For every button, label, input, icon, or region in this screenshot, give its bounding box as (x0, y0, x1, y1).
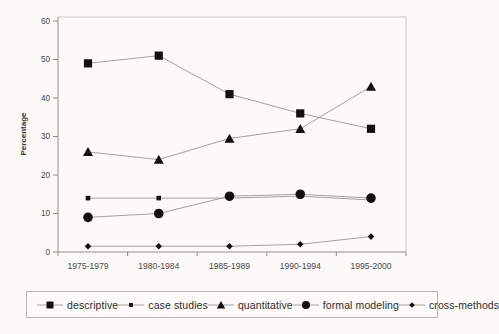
data-point-triangle (366, 82, 376, 91)
data-point-square-large (296, 109, 304, 117)
legend-item-quantitative: quantitative (208, 299, 293, 311)
data-point-diamond (297, 241, 304, 248)
data-point-circle (154, 209, 164, 219)
x-axis-category-label: 1975-1979 (67, 261, 108, 271)
legend-label: descriptive (67, 299, 118, 311)
data-point-circle (366, 193, 376, 203)
y-axis-tick-label: 60 (41, 17, 51, 26)
y-axis-tick-label: 10 (41, 209, 51, 218)
data-point-triangle (295, 124, 305, 133)
x-axis-category-label: 1985-1989 (209, 261, 250, 271)
data-point-diamond (85, 243, 92, 250)
series-descriptive (84, 52, 375, 133)
legend-label: cross-methods (429, 299, 499, 311)
y-axis-tick-label: 30 (41, 132, 51, 141)
legend-label: quantitative (238, 299, 293, 311)
circle-legend-icon (293, 299, 319, 311)
data-point-triangle (83, 147, 93, 156)
legend-item-descriptive: descriptive (37, 299, 118, 311)
data-point-square-large (367, 125, 375, 133)
y-axis-tick-label: 50 (41, 55, 51, 64)
line-chart: 01020304050601975-19791980-19841985-1989… (0, 0, 455, 290)
data-point-square-large (155, 52, 163, 60)
diamond-legend-icon (399, 299, 425, 311)
data-point-square-large (225, 90, 233, 98)
x-axis-category-label: 1990-1994 (280, 261, 321, 271)
square-large-legend-icon (37, 299, 63, 311)
legend-item-case-studies: case studies (118, 299, 208, 311)
data-point-square-small (129, 303, 133, 307)
data-point-circle (302, 300, 310, 308)
data-point-square-large (84, 59, 92, 67)
data-point-circle (225, 191, 235, 201)
triangle-legend-icon (208, 299, 234, 311)
data-point-diamond (155, 243, 162, 250)
x-axis-category-label: 1980-1984 (138, 261, 179, 271)
data-point-square-small (86, 196, 91, 201)
legend-item-cross-methods: cross-methods (399, 299, 499, 311)
data-point-square-small (156, 196, 161, 201)
data-point-circle (295, 189, 305, 199)
data-point-diamond (226, 243, 233, 250)
x-axis-category-label: 1995-2000 (350, 261, 391, 271)
square-small-legend-icon (118, 299, 144, 311)
legend-label: case studies (148, 299, 208, 311)
series-cross-methods (85, 233, 375, 249)
legend-label: formal modeling (323, 299, 399, 311)
y-axis-tick-label: 40 (41, 94, 51, 103)
y-axis-tick-label: 0 (45, 248, 50, 257)
series-formal-modeling (83, 189, 376, 222)
y-axis-tick-label: 20 (41, 171, 51, 180)
y-axis-title: Percentage (19, 112, 28, 156)
chart-legend: descriptivecase studiesquantitativeforma… (26, 291, 438, 318)
data-point-circle (83, 213, 93, 223)
data-point-diamond (368, 233, 375, 240)
data-point-square-large (47, 301, 54, 308)
data-point-diamond (409, 302, 415, 308)
legend-item-formal-modeling: formal modeling (293, 299, 399, 311)
